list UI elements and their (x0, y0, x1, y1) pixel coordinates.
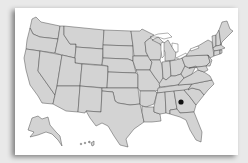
state-hawaii-island-2[interactable] (84, 142, 86, 144)
alaska-inset (28, 116, 62, 146)
state-hawaii-island-1[interactable] (80, 143, 82, 145)
lake-michigan (161, 42, 164, 58)
state-maine[interactable] (219, 21, 233, 45)
state-florida[interactable] (170, 109, 202, 142)
state-alaska[interactable] (28, 116, 62, 146)
state-north-dakota[interactable] (103, 30, 133, 46)
lake-superior (150, 33, 172, 39)
state-wyoming[interactable] (75, 47, 103, 65)
location-marker[interactable] (178, 99, 183, 104)
us-map (0, 0, 248, 163)
state-hawaii-island-3[interactable] (88, 141, 90, 143)
state-arizona[interactable] (53, 86, 80, 112)
state-hawaii-island-4[interactable] (91, 141, 94, 146)
state-new-mexico[interactable] (78, 86, 102, 113)
contiguous-states (24, 17, 233, 147)
state-colorado[interactable] (80, 64, 108, 88)
hawaii-inset (80, 141, 94, 146)
state-connecticut[interactable] (214, 50, 220, 56)
state-kansas[interactable] (107, 72, 138, 88)
state-rhode-island[interactable] (220, 50, 222, 54)
